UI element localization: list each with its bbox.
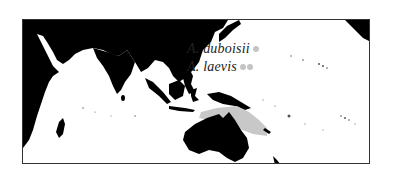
island-sulawesi xyxy=(191,88,199,102)
map-frame: A. duboisii A. laevis xyxy=(22,19,370,164)
circle-marker-icon xyxy=(247,64,253,70)
island-madagascar xyxy=(56,118,65,138)
legend-label: A. laevis xyxy=(187,59,237,75)
map-legend: A. duboisii A. laevis xyxy=(187,40,259,76)
island-sumatra xyxy=(145,78,171,104)
landmass-india xyxy=(93,48,135,94)
legend-item-duboisii: A. duboisii xyxy=(187,40,259,58)
island-java xyxy=(169,106,195,112)
island-srilanka xyxy=(121,95,125,101)
circle-marker-icon xyxy=(240,64,246,70)
landmass-north-america xyxy=(345,20,370,42)
island-newzealand xyxy=(273,156,281,164)
island-borneo xyxy=(169,80,185,100)
legend-item-laevis: A. laevis xyxy=(187,58,259,76)
circle-marker-icon xyxy=(253,46,259,52)
legend-label: A. duboisii xyxy=(187,41,250,57)
